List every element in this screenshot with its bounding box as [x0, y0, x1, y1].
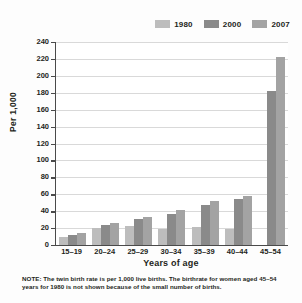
bar-2000	[134, 219, 143, 245]
y-axis-tick	[51, 110, 55, 111]
y-axis-tick	[51, 42, 55, 43]
legend-item-1980: 1980	[155, 20, 193, 29]
y-axis-tick-label: 0	[45, 241, 49, 249]
y-axis-tick-label: 80	[41, 173, 49, 181]
bar-1980	[225, 229, 234, 245]
bar-1980	[192, 227, 201, 245]
x-axis-tick-label: 40–44	[221, 246, 254, 258]
x-axis-tick-label: 20–24	[88, 246, 121, 258]
y-axis-tick	[51, 177, 55, 178]
y-axis-tick	[51, 228, 55, 229]
y-axis-tick	[51, 160, 55, 161]
y-axis-tick-label: 200	[36, 72, 49, 80]
bar-2007	[176, 210, 185, 245]
chart-figure: 198020002007 Per 1,000 24022020018016014…	[0, 0, 302, 303]
legend-swatch-1980	[155, 20, 170, 28]
y-axis-tick-label: 100	[36, 156, 49, 164]
bar-group	[222, 42, 255, 245]
bar-1980	[125, 226, 134, 245]
legend-item-2007: 2007	[252, 20, 290, 29]
bar-2007	[110, 223, 119, 245]
bar-2007	[210, 201, 219, 245]
bar-2000	[101, 225, 110, 245]
legend-label: 2000	[223, 20, 242, 29]
bar-1980	[92, 228, 101, 245]
bar-2007	[143, 217, 152, 245]
y-axis-tick	[51, 194, 55, 195]
bar-2000	[68, 235, 77, 245]
bar-group	[155, 42, 188, 245]
plot-area: 240220200180160140120100806040200	[55, 42, 288, 246]
y-axis-tick	[51, 144, 55, 145]
bar-2000	[234, 199, 243, 245]
bar-2007	[276, 57, 285, 245]
y-axis-tick-label: 220	[36, 55, 49, 63]
chart-legend: 198020002007	[0, 17, 302, 31]
x-axis-ticks: 15–1920–2425–2930–3435–3940–4445–54	[55, 246, 287, 258]
legend-label: 1980	[174, 20, 193, 29]
y-axis-tick	[51, 127, 55, 128]
bar-groups	[56, 42, 288, 245]
y-axis-tick-label: 120	[36, 140, 49, 148]
x-axis-tick-label: 15–19	[55, 246, 88, 258]
y-axis-tick	[51, 93, 55, 94]
y-axis-tick-label: 60	[41, 190, 49, 198]
bar-2000	[267, 91, 276, 245]
y-axis-tick-label: 20	[41, 224, 49, 232]
y-axis-tick	[51, 59, 55, 60]
bar-2007	[243, 196, 252, 245]
y-axis-tick-label: 180	[36, 89, 49, 97]
bar-2000	[167, 214, 176, 245]
x-axis-title: Years of age	[55, 258, 287, 268]
y-axis-tick	[51, 211, 55, 212]
bar-group	[122, 42, 155, 245]
bar-group	[189, 42, 222, 245]
y-axis-tick	[51, 76, 55, 77]
bar-group	[89, 42, 122, 245]
y-axis-title: Per 1,000	[8, 92, 18, 132]
legend-label: 2007	[271, 20, 290, 29]
bar-1980	[158, 229, 167, 245]
chart-footnote: NOTE: The twin birth rate is per 1,000 l…	[22, 275, 284, 292]
legend-item-2000: 2000	[204, 20, 242, 29]
x-axis-tick-label: 30–34	[154, 246, 187, 258]
bar-2000	[201, 205, 210, 245]
bar-group	[56, 42, 89, 245]
x-axis-tick-label: 35–39	[188, 246, 221, 258]
bar-group	[255, 42, 288, 245]
legend-swatch-2007	[252, 20, 267, 28]
legend-swatch-2000	[204, 20, 219, 28]
y-axis-tick-label: 160	[36, 106, 49, 114]
bar-1980	[59, 237, 68, 245]
x-axis-tick-label: 25–29	[121, 246, 154, 258]
y-axis-tick-label: 40	[41, 207, 49, 215]
y-axis-tick-label: 240	[36, 38, 49, 46]
bar-2007	[77, 233, 86, 245]
x-axis-tick-label: 45–54	[254, 246, 287, 258]
y-axis-tick-label: 140	[36, 123, 49, 131]
